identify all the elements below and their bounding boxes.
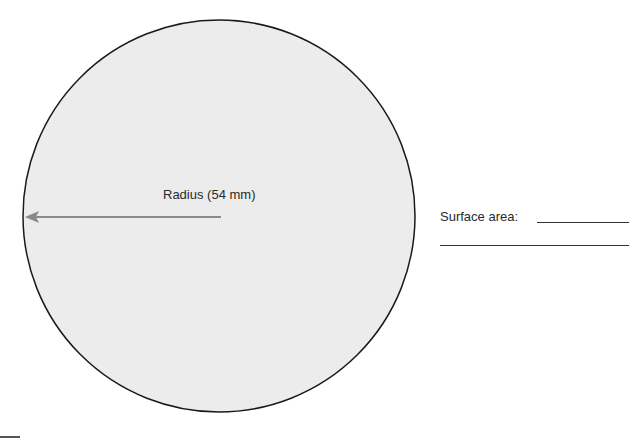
answer-blank-line[interactable]: [537, 222, 629, 223]
answer-blank-line[interactable]: [440, 245, 629, 246]
radius-label: Radius (54 mm): [163, 187, 255, 202]
surface-area-label: Surface area:: [440, 209, 518, 224]
circle-diagram: [0, 0, 635, 438]
